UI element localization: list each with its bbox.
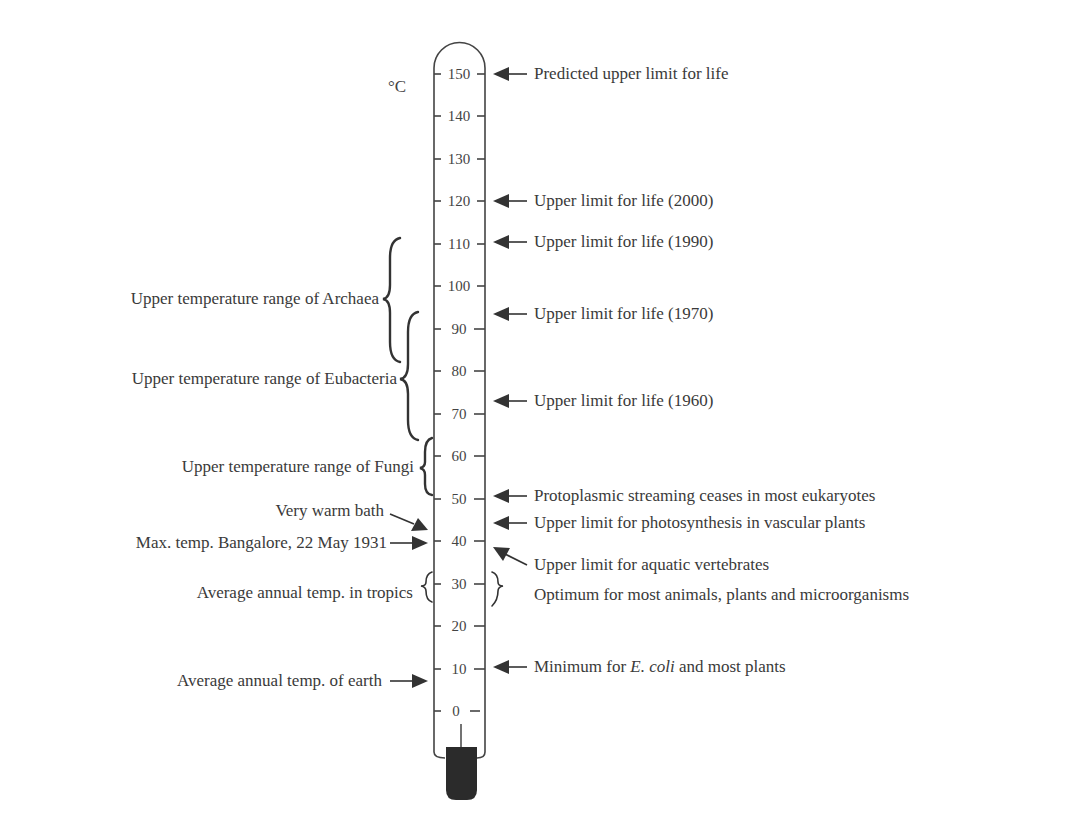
optimum-label: Optimum for most animals, plants and mic…: [534, 585, 909, 605]
arrow-left-icon: [493, 307, 527, 321]
thermometer-diagram: [0, 0, 1067, 834]
ecoli-italic: E. coli: [630, 657, 674, 676]
upper-limit-2000-label: Upper limit for life (2000): [534, 191, 713, 211]
tick-label: 140: [444, 108, 474, 124]
optimum-brace: [492, 572, 503, 606]
arrow-right-icon: [390, 674, 428, 688]
upper-limit-1960-label: Upper limit for life (1960): [534, 391, 713, 411]
tick-label: 90: [444, 321, 474, 337]
arrow-left-icon: [493, 235, 527, 249]
arrow-diagonal-icon: [390, 514, 428, 531]
arrow-left-icon: [493, 660, 527, 674]
thermometer-bulb: [446, 747, 477, 800]
tropics-average-label: Average annual temp. in tropics: [197, 583, 413, 603]
fungi-brace: [420, 438, 432, 495]
tick-label: 10: [444, 661, 474, 677]
max-temp-bangalore-label: Max. temp. Bangalore, 22 May 1931: [136, 533, 387, 553]
tick-label: 20: [444, 618, 474, 634]
upper-limit-1970-label: Upper limit for life (1970): [534, 304, 713, 324]
tick-label: 30: [444, 576, 474, 592]
tick-label: 110: [444, 236, 474, 252]
scale-ticks: [434, 74, 485, 711]
tick-label: 120: [444, 193, 474, 209]
thermometer-tube: [434, 43, 485, 759]
tropics-brace: [421, 572, 432, 602]
unit-label: °C: [388, 77, 406, 97]
earth-average-label: Average annual temp. of earth: [177, 671, 382, 691]
arrow-left-icon: [493, 516, 527, 530]
tick-label: 70: [444, 406, 474, 422]
tick-label: 0: [441, 703, 471, 719]
tick-label: 150: [444, 66, 474, 82]
fungi-range-label: Upper temperature range of Fungi: [182, 457, 414, 477]
eubacteria-range-label: Upper temperature range of Eubacteria: [132, 369, 397, 389]
eubacteria-brace: [400, 312, 418, 440]
ecoli-minimum-label: Minimum for E. coli and most plants: [534, 657, 786, 677]
predicted-upper-limit-label: Predicted upper limit for life: [534, 64, 729, 84]
archaea-range-label: Upper temperature range of Archaea: [131, 289, 379, 309]
tick-label: 50: [444, 491, 474, 507]
arrow-left-icon: [493, 67, 527, 81]
archaea-brace: [383, 238, 400, 362]
tick-label: 100: [444, 278, 474, 294]
arrow-right-icon: [390, 536, 428, 550]
arrow-diagonal-icon: [493, 547, 527, 565]
arrow-left-icon: [493, 489, 527, 503]
upper-limit-1990-label: Upper limit for life (1990): [534, 232, 713, 252]
photosynthesis-limit-label: Upper limit for photosynthesis in vascul…: [534, 513, 865, 533]
arrow-left-icon: [493, 394, 527, 408]
protoplasmic-streaming-label: Protoplasmic streaming ceases in most eu…: [534, 486, 875, 506]
tick-label: 130: [444, 151, 474, 167]
arrow-left-icon: [493, 194, 527, 208]
tick-label: 60: [444, 448, 474, 464]
tick-label: 40: [444, 533, 474, 549]
very-warm-bath-label: Very warm bath: [275, 501, 384, 521]
tick-label: 80: [444, 363, 474, 379]
aquatic-vertebrates-label: Upper limit for aquatic vertebrates: [534, 555, 769, 575]
